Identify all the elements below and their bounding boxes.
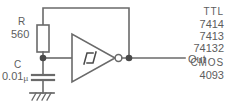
device-family-cmos-part-0: 4093 [176,69,224,81]
junction-output-node [126,55,133,62]
device-family-ttl-part-1: 7413 [176,30,224,42]
device-family-cmos-name: CMOS [176,57,224,69]
device-family-ttl-name: TTL [176,6,224,18]
gate-triangle [72,34,115,82]
ground-hatch [32,93,51,100]
capacitor-value-label: 0.01µ [2,71,28,83]
schematic-figure: R 560 C 0.01µ Out TTL 7414 7413 74132 CM… [0,0,227,108]
junction-rc-node [40,55,47,62]
resistor-designator-label: R [18,17,25,28]
device-family-ttl: TTL 7414 7413 74132 [176,6,224,54]
capacitor-value-number: 0.01 [2,70,23,82]
device-family-ttl-part-2: 74132 [176,42,224,54]
device-family-cmos: CMOS 4093 [176,57,224,81]
resistor-value-label: 560 [11,29,29,41]
capacitor-designator-label: C [14,60,21,71]
capacitor-value-unit: µ [23,74,28,83]
device-family-ttl-part-0: 7414 [176,18,224,30]
inverter-bubble [115,55,122,62]
resistor-body [37,25,49,52]
